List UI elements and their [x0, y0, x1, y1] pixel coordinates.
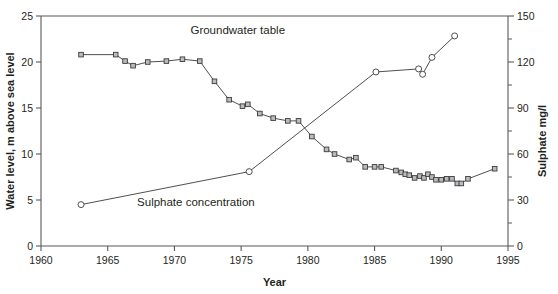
data-point-circle — [420, 71, 426, 77]
bottom-tick-label: 1995 — [496, 254, 520, 266]
data-point-square — [123, 59, 128, 64]
data-point-square — [145, 60, 150, 65]
bottom-axis-ticks: 19601965197019751980198519901995 — [29, 246, 520, 266]
data-point-square — [286, 119, 291, 124]
data-point-square — [407, 173, 412, 178]
left-tick-label: 15 — [21, 102, 33, 114]
data-point-square — [180, 57, 185, 62]
data-point-square — [450, 177, 455, 182]
data-point-square — [444, 177, 449, 182]
groundwater-sulphate-chart: 0510152025 0306090120150 196019651970197… — [0, 0, 558, 294]
data-point-square — [310, 134, 315, 139]
data-point-square — [324, 147, 329, 152]
data-point-square — [459, 181, 464, 186]
bottom-axis-title: Year — [263, 276, 287, 288]
data-point-circle — [78, 202, 84, 208]
data-point-square — [439, 177, 444, 182]
left-axis-title: Water level, m above sea level — [4, 52, 16, 209]
data-point-circle — [246, 169, 252, 175]
plot-axes — [41, 16, 508, 246]
data-point-square — [363, 165, 368, 170]
data-point-square — [412, 176, 417, 181]
left-tick-label: 0 — [27, 240, 33, 252]
right-tick-label: 120 — [517, 56, 535, 68]
data-point-square — [131, 63, 136, 68]
data-point-square — [296, 119, 301, 124]
data-point-square — [227, 97, 232, 102]
right-axis-ticks: 0306090120150 — [508, 10, 535, 252]
left-tick-label: 20 — [21, 56, 33, 68]
right-tick-label: 60 — [517, 148, 529, 160]
data-point-square — [271, 116, 276, 121]
groundwater-table-label: Groundwater table — [190, 24, 285, 36]
right-tick-label: 150 — [517, 10, 535, 22]
data-point-square — [113, 52, 118, 57]
data-point-square — [354, 155, 359, 160]
data-point-square — [197, 59, 202, 64]
series-annotations: Groundwater tableSulphate concentration — [137, 24, 285, 208]
bottom-tick-label: 1990 — [430, 254, 454, 266]
chart-figure: 0510152025 0306090120150 196019651970197… — [0, 0, 558, 294]
data-point-square — [164, 59, 169, 64]
bottom-tick-label: 1965 — [96, 254, 120, 266]
data-point-square — [240, 104, 245, 109]
data-point-square — [394, 168, 399, 173]
bottom-tick-label: 1960 — [29, 254, 53, 266]
series-1 — [79, 52, 497, 185]
bottom-tick-label: 1975 — [229, 254, 253, 266]
data-point-square — [372, 165, 377, 170]
right-axis-title: Sulphate mg/l — [536, 105, 548, 177]
data-point-square — [434, 177, 439, 182]
data-point-square — [347, 157, 352, 162]
bottom-tick-label: 1970 — [163, 254, 187, 266]
data-point-square — [258, 111, 263, 116]
right-tick-label: 30 — [517, 194, 529, 206]
data-point-circle — [429, 54, 435, 60]
data-point-circle — [452, 33, 458, 39]
right-tick-label: 90 — [517, 102, 529, 114]
data-point-square — [379, 165, 384, 170]
data-series-layer — [78, 33, 497, 208]
data-point-square — [332, 152, 337, 157]
data-point-square — [79, 52, 84, 57]
data-point-square — [212, 79, 217, 84]
data-point-square — [246, 102, 251, 107]
bottom-tick-label: 1985 — [363, 254, 387, 266]
bottom-tick-label: 1980 — [296, 254, 320, 266]
series-2 — [78, 33, 458, 208]
data-point-circle — [373, 69, 379, 75]
left-axis-ticks: 0510152025 — [21, 10, 41, 252]
left-tick-label: 25 — [21, 10, 33, 22]
data-point-square — [492, 166, 497, 171]
data-point-square — [466, 177, 471, 182]
series-line-2 — [81, 36, 455, 205]
right-tick-label: 0 — [517, 240, 523, 252]
sulphate-concentration-label: Sulphate concentration — [137, 196, 255, 208]
data-point-circle — [416, 66, 422, 72]
left-tick-label: 5 — [27, 194, 33, 206]
left-tick-label: 10 — [21, 148, 33, 160]
